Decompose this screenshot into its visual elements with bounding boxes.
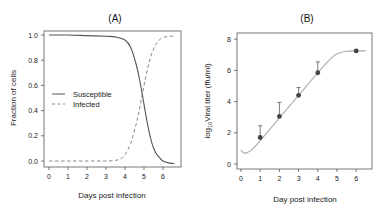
y-tick-label: 0.6 (28, 82, 38, 89)
panel-a-x-axis-label: Days post infection (78, 191, 146, 200)
y-tick-label: 1.0 (28, 32, 38, 39)
legend-label-susceptible: Susceptible (73, 90, 112, 99)
x-tick-label: 1 (66, 173, 70, 180)
x-tick-label: 2 (85, 173, 89, 180)
y-tick-label: 0.2 (28, 132, 38, 139)
panel-a-legend: Susceptible Infected (52, 90, 112, 109)
panel-b-series (241, 49, 366, 154)
x-tick-label: 3 (104, 173, 108, 180)
x-tick-label: 2 (277, 175, 281, 182)
y-tick-label: 6 (227, 67, 231, 74)
panel-b-plot-frame (237, 33, 372, 169)
figure: (A) 0.00.20.40.60.81.0 0123456 Susceptib… (0, 0, 384, 215)
x-tick-label: 3 (297, 175, 301, 182)
y-tick-label: 2 (227, 129, 231, 136)
y-tick-label: 0 (227, 161, 231, 168)
x-tick-label: 6 (354, 175, 358, 182)
x-tick-label: 0 (47, 173, 51, 180)
panel-b-title: (B) (300, 13, 313, 24)
panel-a-chart: (A) 0.00.20.40.60.81.0 0123456 Susceptib… (9, 13, 181, 200)
x-tick-label: 5 (335, 175, 339, 182)
y-tick-label: 0.8 (28, 57, 38, 64)
panel-a-x-axis: 0123456 (47, 167, 165, 180)
x-tick-label: 0 (239, 175, 243, 182)
panel-b-chart: (B) 02468 0123456 Day post infection log… (203, 13, 372, 204)
y-tick-label: 4 (227, 98, 231, 105)
data-point (277, 114, 282, 119)
x-tick-label: 4 (123, 173, 127, 180)
panel-a-series (49, 35, 174, 164)
y-tick-label: 0.4 (28, 107, 38, 114)
data-point (258, 135, 263, 140)
panel-b-y-axis: 02468 (227, 36, 237, 168)
panel-b-y-axis-label: log10Viral titer (ffu/ml) (203, 63, 213, 139)
x-tick-label: 1 (258, 175, 262, 182)
panel-a-plot-frame (44, 31, 181, 167)
data-point (315, 70, 320, 75)
series-line-susceptible (49, 35, 174, 164)
x-tick-label: 4 (316, 175, 320, 182)
data-point (354, 49, 359, 54)
y-tick-label: 0.0 (28, 158, 38, 165)
panel-a-title: (A) (108, 13, 121, 24)
panel-b-x-axis-label: Day post infection (273, 195, 337, 204)
panel-a-y-axis-label: Fraction of cells (9, 70, 18, 126)
panel-a-y-axis: 0.00.20.40.60.81.0 (28, 32, 44, 165)
panel-b-x-axis: 0123456 (239, 169, 358, 182)
x-tick-label: 6 (161, 173, 165, 180)
x-tick-label: 5 (142, 173, 146, 180)
legend-label-infected: Infected (73, 100, 100, 109)
y-tick-label: 8 (227, 36, 231, 43)
data-point (296, 93, 301, 98)
